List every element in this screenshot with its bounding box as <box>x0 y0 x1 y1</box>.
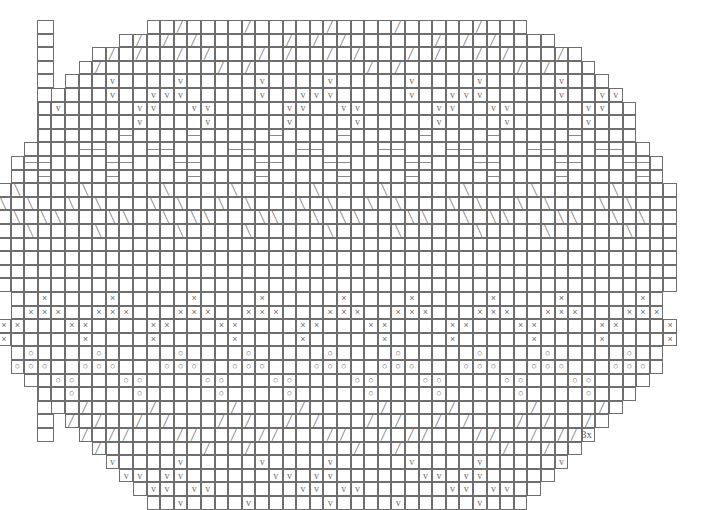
chart-cell: ○ <box>269 374 283 388</box>
slip-stitch-icon: v <box>287 103 292 113</box>
chart-cell <box>215 360 229 374</box>
chart-cell <box>623 142 637 156</box>
chart-cell <box>419 88 433 102</box>
right-leaning-decrease-icon: ╱ <box>150 402 156 413</box>
chart-cell <box>255 238 269 252</box>
chart-cell <box>65 238 79 252</box>
chart-cell <box>79 102 93 116</box>
slip-stitch-icon: v <box>586 117 591 127</box>
cross-stitch-icon: × <box>518 321 523 330</box>
chart-cell <box>391 102 405 116</box>
right-leaning-decrease-icon: ╱ <box>96 62 102 73</box>
chart-cell <box>174 251 188 265</box>
chart-cell <box>473 183 487 197</box>
yarn-over-icon: ○ <box>613 362 618 371</box>
chart-cell: ○ <box>541 360 555 374</box>
chart-cell <box>51 333 65 347</box>
chart-cell <box>51 292 65 306</box>
chart-cell: ╱ <box>527 401 541 415</box>
chart-cell <box>242 156 256 170</box>
chart-cell: × <box>337 306 351 320</box>
chart-cell <box>364 210 378 224</box>
chart-cell <box>527 469 541 483</box>
chart-cell: ╲ <box>391 197 405 211</box>
chart-cell <box>351 292 365 306</box>
chart-cell <box>568 61 582 75</box>
chart-cell <box>228 197 242 211</box>
chart-cell <box>228 469 242 483</box>
chart-cell <box>269 482 283 496</box>
slip-stitch-icon: v <box>409 457 414 467</box>
chart-cell <box>133 428 147 442</box>
slip-stitch-icon: v <box>205 103 210 113</box>
chart-cell <box>459 61 473 75</box>
chart-cell <box>473 387 487 401</box>
cross-stitch-icon: × <box>15 321 20 330</box>
chart-cell <box>337 333 351 347</box>
chart-cell <box>364 306 378 320</box>
chart-cell: ○ <box>174 346 188 360</box>
chart-cell <box>92 238 106 252</box>
chart-cell: × <box>500 306 514 320</box>
chart-cell <box>160 20 174 34</box>
chart-cell: ○ <box>65 387 79 401</box>
chart-cell: × <box>65 319 79 333</box>
chart-cell <box>255 265 269 279</box>
chart-cell <box>568 224 582 238</box>
slip-stitch-icon: v <box>260 90 265 100</box>
right-leaning-decrease-icon: ╱ <box>422 429 428 440</box>
chart-cell <box>174 170 188 184</box>
chart-cell <box>364 265 378 279</box>
left-leaning-decrease-icon: ╲ <box>572 212 578 223</box>
cross-stitch-icon: × <box>341 294 346 303</box>
chart-cell <box>650 170 664 184</box>
chart-cell <box>38 115 52 129</box>
chart-cell: ○ <box>11 360 25 374</box>
chart-cell: — <box>119 129 133 143</box>
chart-cell <box>11 238 25 252</box>
chart-cell <box>337 401 351 415</box>
chart-cell: ○ <box>351 374 365 388</box>
chart-cell: v <box>595 88 609 102</box>
chart-cell <box>92 129 106 143</box>
yarn-over-icon: ○ <box>463 362 468 371</box>
chart-cell <box>147 469 161 483</box>
chart-cell <box>310 455 324 469</box>
chart-cell <box>242 292 256 306</box>
chart-cell <box>106 142 120 156</box>
chart-cell: ╲ <box>310 210 324 224</box>
slip-stitch-icon: v <box>151 484 156 494</box>
chart-cell <box>419 265 433 279</box>
chart-cell <box>487 374 501 388</box>
chart-cell <box>514 34 528 48</box>
chart-cell <box>119 292 133 306</box>
chart-cell <box>391 278 405 292</box>
chart-cell: v <box>133 102 147 116</box>
purl-stitch-icon: — <box>623 157 636 167</box>
chart-cell <box>446 360 460 374</box>
chart-cell <box>133 251 147 265</box>
chart-cell: — <box>255 156 269 170</box>
chart-cell: × <box>527 319 541 333</box>
chart-cell: ╲ <box>242 197 256 211</box>
chart-cell <box>337 414 351 428</box>
chart-cell <box>473 292 487 306</box>
chart-cell <box>541 47 555 61</box>
chart-cell: ○ <box>79 360 93 374</box>
chart-cell <box>514 102 528 116</box>
chart-cell <box>215 224 229 238</box>
right-leaning-decrease-icon: ╱ <box>490 35 496 46</box>
chart-cell <box>500 183 514 197</box>
chart-cell <box>364 224 378 238</box>
chart-cell <box>228 115 242 129</box>
chart-cell <box>65 170 79 184</box>
slip-stitch-icon: v <box>246 498 251 508</box>
chart-cell <box>174 238 188 252</box>
chart-cell: ╱ <box>391 61 405 75</box>
chart-cell: — <box>636 170 650 184</box>
cross-stitch-icon: × <box>232 321 237 330</box>
chart-cell <box>323 102 337 116</box>
chart-cell <box>487 278 501 292</box>
chart-cell: v <box>446 102 460 116</box>
chart-cell <box>555 278 569 292</box>
